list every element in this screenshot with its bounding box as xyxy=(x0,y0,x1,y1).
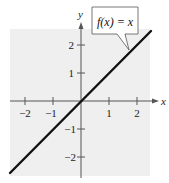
callout-label: f(x) = x xyxy=(97,15,134,29)
x-tick-label: 1 xyxy=(106,107,112,119)
x-tick-label: −1 xyxy=(45,107,57,119)
y-axis-label: y xyxy=(77,8,83,20)
function-graph: x −2 −1 1 2 y 2 1 −1 −2 f(x) = x xyxy=(0,0,169,183)
x-tick-label: −2 xyxy=(19,107,31,119)
y-tick-label: 2 xyxy=(69,39,75,51)
y-tick-label: 1 xyxy=(69,67,75,79)
y-tick-label: −2 xyxy=(64,151,76,163)
y-tick-label: −1 xyxy=(64,123,76,135)
x-axis-label: x xyxy=(160,95,166,107)
x-tick-label: 2 xyxy=(134,107,140,119)
y-axis-arrow-icon xyxy=(79,22,84,29)
x-axis-arrow-icon xyxy=(152,99,159,104)
